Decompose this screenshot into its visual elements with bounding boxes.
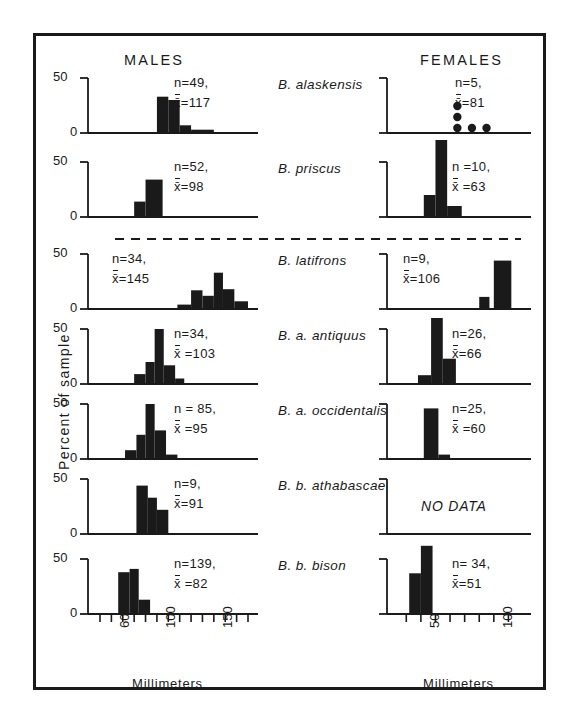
male-bar-1-1	[146, 180, 163, 217]
male-ytick-label-bottom-1: 0	[70, 208, 77, 223]
male-bar-4-2	[146, 404, 155, 459]
species-label-0: B. alaskensis	[278, 77, 363, 92]
female-stat-0-mean: x̄=81	[455, 95, 485, 110]
female-dot-0-0-0	[453, 124, 461, 132]
male-bar-5-1	[148, 498, 157, 534]
female-stat-4-mean: x̄ =60	[452, 421, 486, 436]
male-ytick-label-bottom-4: 0	[70, 450, 77, 465]
female-xtick-label-0: 50	[427, 614, 442, 628]
male-bar-3-0	[134, 374, 145, 384]
male-bar-3-1	[146, 362, 155, 384]
female-dot-0-2-0	[482, 124, 490, 132]
male-stat-3-n: n=34,	[174, 326, 208, 341]
male-stat-3-mean: x̄ =103	[174, 346, 215, 361]
female-bar-6-0	[409, 573, 421, 614]
male-stat-2-n: n=34,	[112, 251, 146, 266]
female-dot-0-1-0	[468, 124, 476, 132]
female-bar-3-1	[431, 318, 443, 384]
female-stat-3-n: n=26,	[452, 326, 486, 341]
male-bar-2-5	[234, 301, 248, 309]
female-bar-4-0	[424, 408, 439, 459]
female-stat-2-mean: x̄=106	[403, 271, 440, 286]
male-ytick-label-bottom-5: 0	[70, 525, 77, 540]
male-ytick-label-top-4: 50	[53, 395, 67, 410]
male-xtick-label-1: 100	[163, 606, 178, 628]
figure-root: MALES FEMALES Percent of sample 500B. al…	[0, 0, 582, 708]
male-ytick-label-bottom-0: 0	[70, 124, 77, 139]
male-stat-4-mean: x̄ =95	[174, 421, 208, 436]
male-bar-0-0	[157, 97, 168, 133]
male-bar-4-3	[155, 430, 166, 459]
male-bar-6-1	[130, 569, 139, 614]
species-label-1: B. priscus	[278, 161, 341, 176]
male-ytick-label-top-2: 50	[53, 245, 67, 260]
male-bar-6-2	[139, 600, 150, 614]
female-stat-4-n: n=25,	[452, 401, 486, 416]
male-stat-2-mean: x̄=145	[112, 271, 149, 286]
male-stat-1-n: n=52,	[174, 159, 208, 174]
male-stat-0-mean: x̄=117	[174, 95, 210, 110]
male-bar-2-2	[202, 296, 213, 309]
female-stat-6-mean: x̄=51	[452, 576, 482, 591]
male-bar-4-0	[125, 450, 136, 459]
female-bar-2-0	[479, 297, 489, 309]
male-ytick-label-bottom-6: 0	[70, 605, 77, 620]
female-bar-6-1	[421, 546, 433, 614]
female-xtick-label-1: 100	[500, 606, 515, 628]
male-bar-5-0	[136, 486, 147, 534]
male-bar-0-2	[180, 125, 191, 133]
female-no-data-5: NO DATA	[421, 498, 487, 514]
female-bar-3-0	[418, 375, 431, 384]
male-ytick-label-top-6: 50	[53, 550, 67, 565]
male-stat-1-mean: x̄=98	[174, 179, 204, 194]
female-bar-3-2	[443, 359, 456, 384]
male-bar-5-2	[157, 510, 168, 534]
male-bar-2-1	[191, 290, 202, 309]
male-ytick-label-top-1: 50	[53, 153, 67, 168]
female-bar-2-1	[494, 261, 512, 309]
species-label-5: B. b. athabascae	[278, 478, 386, 493]
female-axis-title: Millimeters	[423, 676, 494, 691]
male-bar-3-3	[164, 365, 175, 384]
male-bar-6-0	[118, 572, 129, 614]
female-stat-0-n: n=5,	[455, 75, 482, 90]
male-bar-2-4	[223, 289, 234, 309]
male-axis-title: Millimeters	[132, 676, 203, 691]
male-xtick-label-0: 60	[117, 614, 132, 628]
female-bar-1-1	[435, 140, 447, 217]
male-ytick-label-bottom-2: 0	[70, 300, 77, 315]
male-ytick-label-top-5: 50	[53, 470, 67, 485]
male-stat-4-n: n = 85,	[174, 401, 216, 416]
histogram-canvas	[0, 0, 582, 708]
male-ytick-label-top-0: 50	[53, 69, 67, 84]
species-label-6: B. b. bison	[278, 558, 346, 573]
female-bar-1-0	[424, 195, 436, 217]
male-stat-0-n: n=49,	[174, 75, 208, 90]
male-stat-5-n: n=9,	[174, 476, 201, 491]
female-bar-1-2	[447, 206, 462, 217]
species-label-4: B. a. occidentalis	[278, 403, 387, 418]
male-bar-2-3	[214, 273, 223, 309]
male-stat-5-mean: x̄=91	[174, 496, 204, 511]
female-stat-2-n: n=9,	[403, 251, 430, 266]
male-xtick-label-2: 150	[220, 606, 235, 628]
species-label-3: B. a. antiquus	[278, 328, 366, 343]
female-stat-1-mean: x̄ =63	[452, 179, 486, 194]
male-bar-4-1	[136, 435, 145, 459]
male-ytick-label-top-3: 50	[53, 320, 67, 335]
female-bar-4-1	[438, 455, 450, 459]
female-dot-0-0-1	[453, 113, 461, 121]
male-bar-1-0	[134, 202, 145, 217]
male-bar-3-2	[155, 329, 164, 384]
male-bar-0-3	[191, 130, 214, 133]
male-stat-6-n: n=139,	[174, 556, 216, 571]
female-stat-1-n: n =10,	[452, 159, 490, 174]
male-bar-3-4	[175, 379, 184, 385]
male-stat-6-mean: x̄ =82	[174, 576, 208, 591]
male-bar-4-4	[166, 455, 177, 459]
male-ytick-label-bottom-3: 0	[70, 375, 77, 390]
female-stat-3-mean: x̄=66	[452, 346, 482, 361]
male-bar-2-0	[177, 305, 191, 309]
species-label-2: B. latifrons	[278, 253, 347, 268]
female-stat-6-n: n= 34,	[452, 556, 490, 571]
